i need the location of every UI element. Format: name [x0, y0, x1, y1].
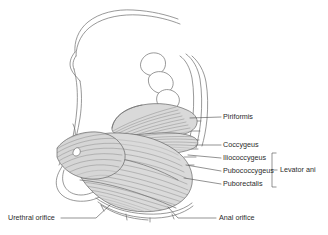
leader-line-anal-orifice — [168, 207, 216, 218]
label-levator-ani: Levator ani — [280, 165, 316, 174]
label-coccygeus: Coccygeus — [223, 140, 259, 149]
anatomy-figure: Piriformis Coccygeus Iliococcygeus Puboc… — [0, 0, 328, 235]
leader-line-pubococcygeus — [186, 165, 221, 171]
leader-line-iliococcygeus — [188, 155, 221, 158]
label-urethral-orifice: Urethral orifice — [8, 213, 55, 222]
label-piriformis: Piriformis — [223, 112, 253, 121]
label-iliococcygeus: Iliococcygeus — [223, 153, 267, 162]
label-puborectalis: Puborectalis — [223, 179, 263, 188]
label-anal-orifice: Anal orifice — [219, 213, 255, 222]
anatomy-illustration: Piriformis Coccygeus Iliococcygeus Puboc… — [0, 0, 328, 235]
label-pubococcygeus: Pubococcygeus — [223, 166, 274, 175]
leader-line-urethral-orifice — [61, 205, 110, 218]
